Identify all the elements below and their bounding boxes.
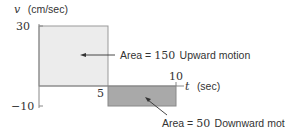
upward-area-label: Area = 150 Upward motion <box>120 45 250 62</box>
y-tick-label-neg10: −10 <box>11 100 34 113</box>
velocity-time-diagram: v (cm/sec) 30 −10 5 10 t (sec) Area = 15… <box>0 0 285 138</box>
downward-area-label: Area = 50 Downward motion <box>162 113 285 130</box>
t-tick-label-5: 5 <box>97 87 104 100</box>
y-axis-label: v (cm/sec) <box>14 0 68 16</box>
t-axis-label: t (sec) <box>185 76 220 93</box>
y-tick-label-30: 30 <box>16 20 30 33</box>
t-tick-label-10: 10 <box>169 70 183 83</box>
upward-area-region <box>39 26 108 86</box>
downward-area-region <box>108 86 176 106</box>
